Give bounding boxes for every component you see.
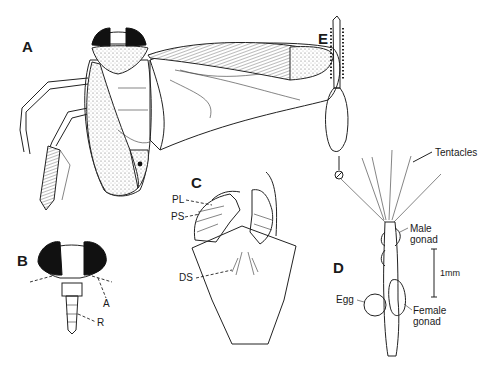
- annotation-female-gonad-1: Female: [413, 305, 447, 316]
- scientific-figure: A B: [0, 0, 489, 366]
- paramere-left: [194, 194, 240, 242]
- leader-r: [78, 314, 96, 322]
- panel-label-b: B: [17, 252, 28, 269]
- panel-d-polyp: D Tentacles Male gonad Egg Female gonad: [333, 147, 477, 356]
- female-gonad: [389, 280, 406, 316]
- body-spot: [138, 162, 143, 167]
- annotation-antenna: A: [103, 298, 110, 309]
- annotation-egg: Egg: [336, 294, 354, 305]
- panel-e-tentacle: E: [318, 16, 348, 179]
- annotation-rostrum: R: [97, 317, 104, 328]
- leader-pl: [186, 200, 212, 205]
- tentacles-leader: [413, 152, 432, 162]
- annotation-tentacles: Tentacles: [435, 147, 477, 158]
- annotation-ds: DS: [179, 272, 193, 283]
- polyp-body: [384, 222, 399, 356]
- fore-wing: [148, 42, 300, 80]
- egg-leader: [357, 300, 364, 302]
- eye-right: [126, 28, 146, 46]
- dorsal-setae: [232, 252, 258, 275]
- leg-middle: [48, 108, 88, 152]
- annotation-female-gonad-2: gonad: [413, 316, 441, 327]
- rostrum: [66, 296, 78, 334]
- scale-bar: [431, 249, 437, 297]
- annotation-male-gonad-2: gonad: [410, 234, 438, 245]
- eye-left-b: [38, 242, 62, 275]
- panel-label-e: E: [318, 30, 328, 47]
- antenna-right: [92, 276, 112, 282]
- panel-label-d: D: [333, 259, 344, 276]
- eye-left: [92, 28, 110, 46]
- annotation-male-gonad-1: Male: [410, 223, 432, 234]
- male-gonad-leader: [400, 228, 408, 232]
- leg-hind-fringe: [40, 146, 60, 210]
- tentacle-bulb: [326, 88, 349, 152]
- panel-c-segment: C PL PS DS: [171, 172, 296, 344]
- leg-front: [20, 78, 88, 152]
- scale-bar-label: 1mm: [440, 268, 460, 278]
- antenna-left: [30, 276, 52, 282]
- panel-a-insect: A: [20, 28, 340, 210]
- eye-right-b: [84, 242, 106, 275]
- annotation-pl: PL: [172, 194, 185, 205]
- panel-label-a: A: [22, 38, 33, 55]
- hemelytron-left: [87, 62, 138, 195]
- leader-a: [98, 278, 106, 298]
- egg: [364, 294, 386, 316]
- clypeus: [62, 283, 82, 296]
- panel-label-c: C: [191, 174, 202, 191]
- annotation-ps: PS: [171, 211, 185, 222]
- genital-segment: [192, 226, 296, 344]
- tentacles: [340, 150, 441, 222]
- panel-b-head: B A R: [17, 242, 112, 334]
- paramere-hook-right: [266, 172, 277, 236]
- hind-wing-membrane: [150, 60, 164, 150]
